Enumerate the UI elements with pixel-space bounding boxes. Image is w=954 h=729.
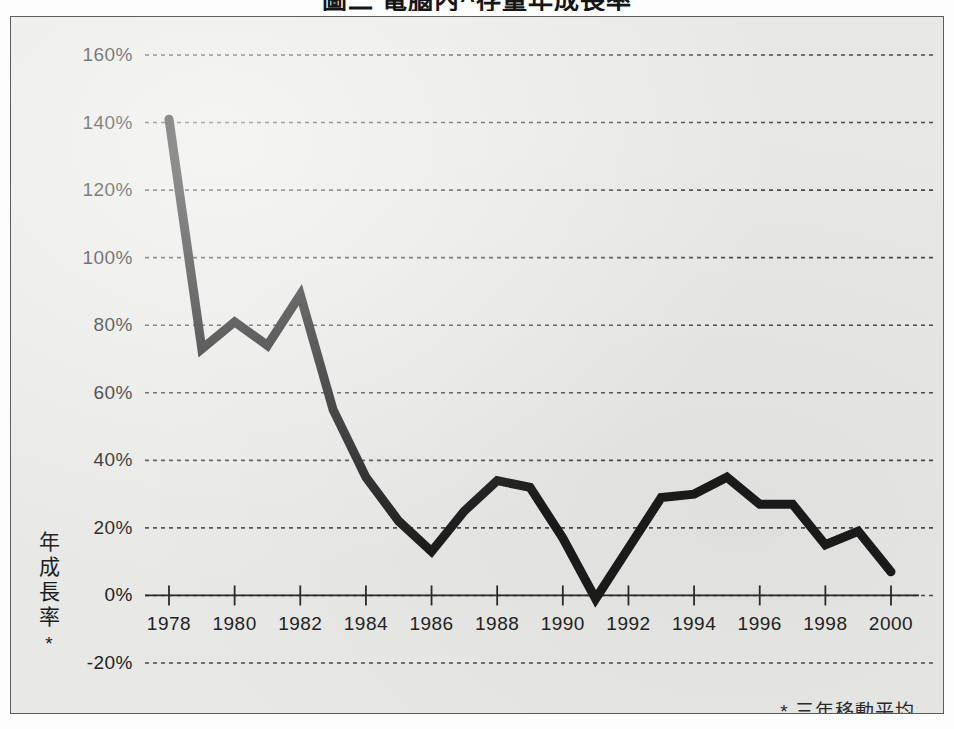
x-axis-tick-label: 2000: [869, 613, 913, 635]
x-axis-tick-label: 1996: [738, 613, 782, 635]
y-axis-tick-label: 160%: [13, 44, 133, 66]
y-axis-title-footnote-marker: *: [25, 631, 73, 656]
chart-page: 圖二 電腦內^存量年成長率 160%140%120%100%80%60%40%2…: [0, 0, 954, 729]
chart-frame: 160%140%120%100%80%60%40%20%0%-20% 19781…: [10, 16, 944, 714]
y-axis-tick-label: 60%: [13, 382, 133, 404]
x-axis-tick-label: 1992: [606, 613, 650, 635]
y-axis-tick-label: 80%: [13, 314, 133, 336]
x-axis-tick-label: 1980: [212, 613, 256, 635]
line-chart-plot: [11, 17, 944, 714]
x-axis-tick-label: 1986: [409, 613, 453, 635]
y-axis-tick-label: 140%: [13, 112, 133, 134]
y-axis-title-char: 成: [25, 554, 73, 579]
page-title: 圖二 電腦內^存量年成長率: [0, 0, 954, 11]
x-axis-tick-label: 1982: [278, 613, 322, 635]
y-axis-tick-label: 120%: [13, 179, 133, 201]
y-axis-title-char: 長: [25, 579, 73, 604]
x-axis-tick-label: 1998: [803, 613, 847, 635]
x-axis-tick-label: 1984: [344, 613, 388, 635]
y-axis-tick-label: 40%: [13, 449, 133, 471]
y-axis-title-char: 年: [25, 529, 73, 554]
y-axis-title-char: 率: [25, 604, 73, 629]
y-axis-tick-label: 100%: [13, 247, 133, 269]
x-axis-tick-label: 1988: [475, 613, 519, 635]
y-axis-title: 年成長率*: [25, 529, 73, 656]
x-axis-tick-label: 1990: [541, 613, 585, 635]
x-axis-tick-label: 1994: [672, 613, 716, 635]
footnote-text: * 三年移動平均: [780, 696, 915, 714]
x-axis-tick-label: 1978: [147, 613, 191, 635]
data-line-series: [169, 119, 891, 599]
